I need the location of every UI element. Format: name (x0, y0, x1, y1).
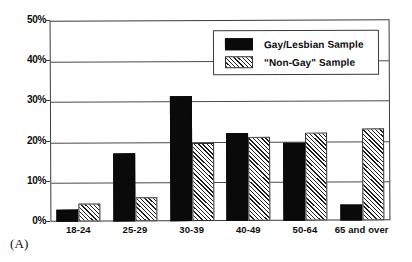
legend-item-non-gay-sample: "Non-Gay" Sample (225, 55, 355, 70)
bar-gay-lesbian-sample (340, 204, 362, 220)
x-axis: 18-2425-2930-3940-4950-6465 and over (50, 224, 390, 240)
bar-non-gay-sample (192, 143, 214, 221)
y-axis-tick-label: 10% (6, 175, 46, 186)
x-axis-tick-label: 25-29 (123, 224, 148, 235)
x-axis-tick-label: 65 and over (335, 224, 389, 235)
bar-gay-lesbian-sample (226, 132, 248, 221)
bar-group (50, 20, 108, 221)
legend-label: Gay/Lesbian Sample (264, 38, 364, 49)
panel-label: (A) (10, 236, 29, 252)
bar-gay-lesbian-sample (170, 97, 193, 222)
y-axis-tick-mark (46, 221, 50, 222)
legend-label: "Non-Gay" Sample (264, 56, 355, 67)
bar-gay-lesbian-sample (57, 210, 79, 222)
y-axis-tick-label: 0% (6, 215, 46, 226)
y-axis-tick-label: 50% (6, 14, 46, 25)
y-axis-tick-label: 20% (6, 135, 46, 146)
y-axis-tick-label: 40% (6, 54, 46, 65)
bar-non-gay-sample (79, 203, 101, 221)
bar-non-gay-sample (135, 197, 157, 221)
diagonal-hatch-swatch-icon (225, 56, 253, 68)
bar-gay-lesbian-sample (283, 142, 305, 220)
bar-non-gay-sample (305, 132, 327, 221)
bar-non-gay-sample (248, 136, 270, 221)
solid-black-swatch-icon (225, 38, 253, 50)
bar-gay-lesbian-sample (113, 153, 135, 221)
legend-item-gay-lesbian-sample: Gay/Lesbian Sample (225, 37, 364, 52)
bar-non-gay-sample (362, 128, 384, 221)
x-axis-tick-label: 50-64 (293, 224, 318, 235)
x-axis-tick-label: 18-24 (66, 224, 91, 235)
y-axis-tick-label: 30% (6, 94, 46, 105)
x-axis-tick-label: 40-49 (236, 224, 261, 235)
bar-group (163, 20, 221, 221)
chart-legend: Gay/Lesbian Sample "Non-Gay" Sample (213, 30, 379, 76)
x-axis-tick-label: 30-39 (179, 224, 204, 235)
bar-chart-figure: 0%10%20%30%40%50% 18-2425-2930-3940-4950… (0, 0, 412, 262)
bar-group (106, 20, 164, 221)
